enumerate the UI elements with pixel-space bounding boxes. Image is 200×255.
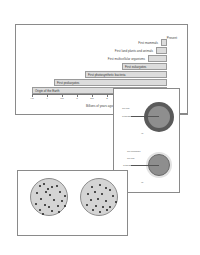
- bar-first-eukaryotes: First eukaryotes: [122, 63, 167, 70]
- cell-a-caption: (a): [141, 132, 143, 134]
- bar-first-multicellular: [148, 55, 167, 62]
- x-axis-title: Billions of years ago: [86, 104, 113, 108]
- x-tick-label: 3: [73, 97, 81, 100]
- label-present: Present: [167, 36, 177, 40]
- bar-first-land-plants-animals: [156, 47, 167, 54]
- x-tick-label: 3.5: [58, 97, 66, 100]
- x-tick-label: 4.5: [28, 97, 36, 100]
- petri-plate-left: [30, 178, 68, 216]
- petri-plate-right: [80, 178, 118, 216]
- leader-line: [131, 165, 159, 166]
- petri-plates-card: [17, 170, 128, 236]
- x-tick-label: 2.5: [88, 97, 96, 100]
- cell-a-cytoplasm: [148, 106, 170, 128]
- bar-first-photosynthetic-bacteria: First photosynthetic bacteria: [85, 71, 167, 78]
- cell-a-label-wall: Cell wall: [122, 107, 129, 109]
- bar-first-prokaryotes: First prokaryotes: [54, 79, 167, 86]
- x-tick-label: 2: [103, 97, 111, 100]
- connector-line: [113, 165, 114, 170]
- label-first-multicellular: First multicellular organisms: [108, 57, 145, 61]
- cell-b-caption: (b): [141, 181, 143, 183]
- x-tick-label: 4: [43, 97, 51, 100]
- bar-first-mammals: [161, 39, 167, 46]
- connector-line: [180, 113, 188, 114]
- label-first-land-plants-animals: First land plants and animals: [115, 49, 153, 53]
- cell-b-label-membrane: Cell membrane: [127, 150, 141, 152]
- cell-b-label-wall: Cell wall: [127, 157, 134, 159]
- label-first-mammals: First mammals: [138, 41, 158, 45]
- leader-line: [131, 116, 159, 117]
